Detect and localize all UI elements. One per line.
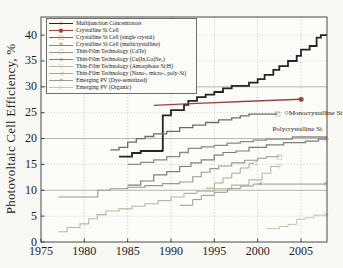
svg-text:□: □ <box>275 110 281 118</box>
legend-label: Crystalline Si Cell (multicrystalline) <box>76 41 160 48</box>
svg-text:✳: ✳ <box>323 180 329 188</box>
legend-label: Crystalline Si Cell <box>76 27 119 34</box>
legend-label: Thin-Film Technology (CdTe) <box>76 48 146 55</box>
y-tick-label: 40 <box>15 30 37 41</box>
legend-box: +Multijunction Concentrators●Crystalline… <box>46 18 197 94</box>
x-tick-label: 1995 <box>197 244 231 259</box>
legend-label: Crystalline Si Cell (single crystal) <box>76 34 154 41</box>
svg-text:◁: ◁ <box>252 159 257 167</box>
x-tick-label: 1990 <box>154 244 188 259</box>
svg-text:□: □ <box>276 153 282 161</box>
y-tick-label: 30 <box>15 81 37 92</box>
y-tick-label: 0 <box>15 237 37 248</box>
x-tick-label: 1985 <box>111 244 145 259</box>
svg-text:✳: ✳ <box>258 180 264 188</box>
legend-label: Thin-Film Technology (Cu(In,Ga)Se₂) <box>76 56 165 63</box>
y-tick-label: 25 <box>15 107 37 118</box>
x-tick-label: 2000 <box>241 244 275 259</box>
svg-text:◇: ◇ <box>324 135 329 143</box>
y-tick-label: 10 <box>15 185 37 196</box>
y-tick-label: 35 <box>15 55 37 66</box>
legend-label: Multijunction Concentrators <box>76 20 142 27</box>
y-tick-label: 5 <box>15 211 37 222</box>
svg-text:●: ● <box>298 95 304 103</box>
series-annotation: Polycrystalline Si <box>272 125 322 133</box>
pv-efficiency-figure: ●□□◇▽◁✳✳▷○Monocrystalline SiPolycrystall… <box>0 0 343 268</box>
y-tick-label: 15 <box>15 159 37 170</box>
svg-text:▷: ▷ <box>324 210 329 218</box>
legend-label: Emerging PV (Organic) <box>76 84 131 91</box>
legend-item: ▷Emerging PV (Organic) <box>49 84 194 91</box>
svg-text:▽: ▽ <box>277 162 282 170</box>
x-tick-label: 1980 <box>67 244 101 259</box>
legend-label: Emerging PV (Dye-sensitized) <box>76 77 147 84</box>
series-annotation: ○Monocrystalline Si <box>285 109 343 117</box>
y-tick-label: 20 <box>15 133 37 144</box>
legend-label: Thin-Film Technology (Nano-, micro-, pol… <box>76 70 186 77</box>
legend-label: Thin-Film Technology (Amorphous Si:H) <box>76 63 173 70</box>
right-triangle-marker: ▷ <box>49 84 73 91</box>
x-tick-label: 2005 <box>284 244 318 259</box>
